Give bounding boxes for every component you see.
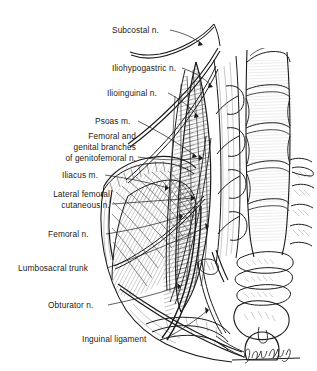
anatomy-figure: Subcostal n. Iliohypogastric n. Ilioingu… <box>0 0 317 371</box>
label-genitofemoral-line2: genital branches <box>0 142 136 153</box>
label-subcostal-nerve: Subcostal n. <box>112 25 159 36</box>
label-inguinal-ligament: Inguinal ligament <box>82 334 146 345</box>
label-obturator-nerve: Obturator n. <box>48 300 93 311</box>
label-genitofemoral-line3: of genitofemoral n. <box>0 153 136 164</box>
label-genitofemoral-line1: Femoral and <box>0 131 136 142</box>
label-lateral-femoral-cutaneous-line1: Lateral femoral <box>0 189 110 200</box>
anatomical-illustration <box>0 0 317 371</box>
label-femoral-nerve: Femoral n. <box>48 229 89 240</box>
label-iliacus-muscle: Iliacus m. <box>62 170 98 181</box>
label-lateral-femoral-cutaneous-line2: cutaneous n. <box>0 200 110 211</box>
label-ilioinguinal-nerve: Ilioinguinal n. <box>107 88 157 99</box>
label-psoas-muscle: Psoas m. <box>95 116 130 127</box>
vertebral-column <box>246 46 292 257</box>
label-iliohypogastric-nerve: Iliohypogastric n. <box>112 63 176 74</box>
label-lumbosacral-trunk: Lumbosacral trunk <box>18 263 88 274</box>
